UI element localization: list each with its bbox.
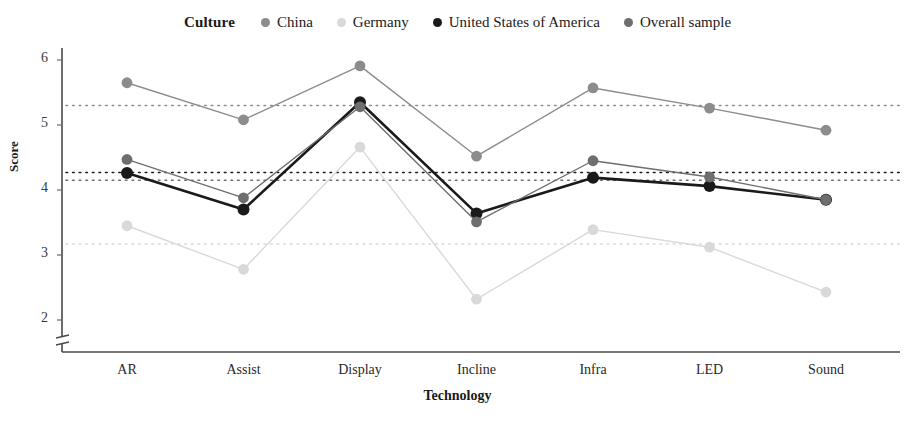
data-point-overall-sample-ar[interactable]	[122, 154, 133, 165]
data-point-china-infra[interactable]	[588, 83, 599, 94]
data-point-overall-sample-infra[interactable]	[588, 155, 599, 166]
data-point-china-assist[interactable]	[238, 114, 249, 125]
data-point-china-ar[interactable]	[122, 77, 133, 88]
plot-area	[0, 0, 915, 421]
series-line-china	[127, 66, 826, 156]
data-point-germany-assist[interactable]	[238, 264, 249, 275]
data-point-germany-sound[interactable]	[821, 287, 832, 298]
data-point-germany-incline[interactable]	[471, 294, 482, 305]
data-point-germany-infra[interactable]	[588, 224, 599, 235]
data-point-china-incline[interactable]	[471, 151, 482, 162]
data-point-united-states-of-america-infra[interactable]	[587, 172, 599, 184]
data-point-germany-led[interactable]	[704, 242, 715, 253]
data-point-china-led[interactable]	[704, 103, 715, 114]
plot-svg	[0, 0, 915, 421]
data-point-united-states-of-america-ar[interactable]	[121, 167, 133, 179]
data-point-germany-display[interactable]	[355, 142, 366, 153]
data-point-overall-sample-display[interactable]	[355, 101, 366, 112]
data-point-united-states-of-america-assist[interactable]	[238, 204, 250, 216]
data-point-overall-sample-led[interactable]	[704, 172, 715, 183]
data-point-china-display[interactable]	[355, 60, 366, 71]
data-point-overall-sample-incline[interactable]	[471, 216, 482, 227]
data-point-overall-sample-sound[interactable]	[821, 194, 832, 205]
data-point-overall-sample-assist[interactable]	[238, 192, 249, 203]
data-point-germany-ar[interactable]	[122, 220, 133, 231]
data-point-china-sound[interactable]	[821, 125, 832, 136]
line-chart: Culture ChinaGermanyUnited States of Ame…	[0, 0, 915, 421]
